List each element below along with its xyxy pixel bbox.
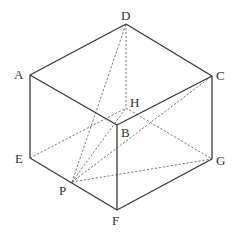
label-B: B xyxy=(121,125,130,140)
segment-PC xyxy=(72,76,212,182)
label-C: C xyxy=(216,68,225,83)
label-G: G xyxy=(216,153,225,168)
edge-EF xyxy=(30,158,117,210)
label-H: H xyxy=(130,95,139,110)
edge-AB xyxy=(30,75,117,125)
edge-DC xyxy=(126,24,212,76)
visible-edges xyxy=(30,24,212,210)
label-A: A xyxy=(14,67,24,82)
segment-PH xyxy=(72,108,126,182)
hidden-edges xyxy=(30,24,212,182)
label-D: D xyxy=(121,8,130,23)
vertex-labels: D A C H B E G P F xyxy=(14,8,225,228)
label-P: P xyxy=(59,183,66,198)
label-E: E xyxy=(15,151,23,166)
edge-EH xyxy=(30,108,126,158)
cube-diagram: D A C H B E G P F xyxy=(0,0,236,235)
label-F: F xyxy=(112,213,119,228)
edge-HG xyxy=(126,108,212,159)
